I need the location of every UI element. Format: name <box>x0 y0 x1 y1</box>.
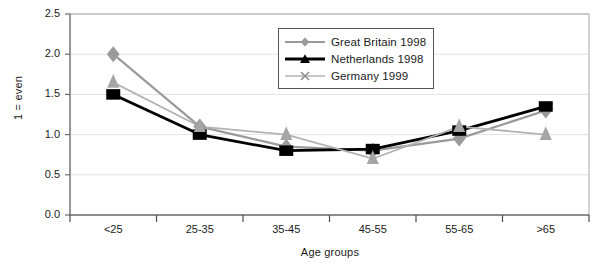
chart-legend: Great Britain 1998 Netherlands 1998 Germ… <box>278 28 434 89</box>
legend-label-netherlands: Netherlands 1998 <box>331 53 423 65</box>
legend-label-great-britain: Great Britain 1998 <box>331 36 426 48</box>
legend-item-great-britain: Great Britain 1998 <box>284 33 426 50</box>
legend-item-netherlands: Netherlands 1998 <box>284 50 426 67</box>
series-line <box>113 82 546 158</box>
series-line <box>113 94 546 150</box>
data-point-x <box>540 126 552 140</box>
data-point-diamond <box>107 46 120 62</box>
legend-swatch-triangle-icon <box>284 52 326 66</box>
legend-swatch-x-icon <box>284 69 326 83</box>
legend-label-germany: Germany 1999 <box>331 70 408 82</box>
chart-figure: 1 = even Age groups 0.00.51.01.52.02.5 <… <box>0 0 609 269</box>
legend-item-germany: Germany 1999 <box>284 67 426 84</box>
legend-swatch-diamond-icon <box>284 35 326 49</box>
data-point-x <box>107 74 119 88</box>
data-point-x <box>453 118 465 132</box>
data-point-triangle <box>279 145 293 156</box>
data-point-triangle <box>106 89 120 100</box>
data-point-triangle <box>539 101 553 112</box>
data-point-x <box>280 126 292 140</box>
